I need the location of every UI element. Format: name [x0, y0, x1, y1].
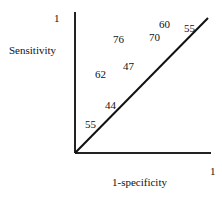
y-max-label: 1 — [54, 12, 60, 24]
point-label: 76 — [113, 33, 124, 45]
y-axis-label: Sensitivity — [9, 44, 56, 56]
x-max-label: 1 — [210, 165, 216, 177]
point-label: 44 — [105, 99, 116, 111]
point-label: 70 — [149, 31, 160, 43]
point-label: 55 — [85, 118, 96, 130]
point-label: 47 — [123, 60, 134, 72]
point-label: 60 — [159, 18, 170, 30]
point-label: 62 — [95, 68, 106, 80]
x-axis-label: 1-specificity — [112, 176, 167, 188]
diagonal-chance-line — [75, 18, 208, 153]
point-label: 55 — [184, 22, 195, 34]
